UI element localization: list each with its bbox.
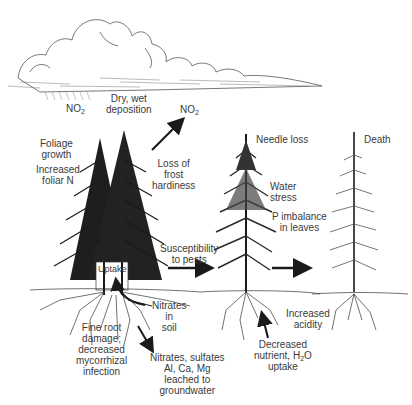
acidity-label: Increasedacidity (286, 308, 330, 330)
water-stress-label: Waterstress (270, 181, 297, 203)
deposition-label: Dry, wetdeposition (106, 93, 152, 115)
nutrient-uptake-label: Decreasednutrient, H2Ouptake (254, 339, 312, 372)
illustration (0, 0, 412, 405)
cloud-icon (8, 20, 322, 100)
frost-hardiness-label: Loss offrosthardiness (152, 158, 195, 191)
p-imbalance-label: P imbalancein leaves (272, 211, 327, 233)
uptake-label: Uptake (98, 264, 127, 275)
foliar-n-label: Increasedfoliar N (36, 164, 80, 186)
pests-label: Susceptibilityto pests (160, 243, 218, 265)
nutrient-arrow (262, 314, 268, 338)
nitrates-soil-label: Nitratesinsoil (152, 300, 186, 333)
foliage-growth-label: Foliagegrowth (40, 138, 73, 160)
declining-tree-icon (214, 134, 276, 292)
dead-tree-icon (330, 132, 378, 292)
death-label: Death (364, 134, 391, 145)
needle-loss-label: Needle loss (256, 134, 308, 145)
no2-label-right: NO2 (180, 104, 199, 115)
root-damage-label: Fine rootdamage;decreasedmycorrhizalinfe… (76, 322, 127, 377)
leaching-label: Nitrates, sulfatesAl, Ca, Mgleached togr… (150, 352, 224, 396)
emission-arrow (152, 120, 182, 150)
no2-label-left: NO2 (66, 103, 85, 114)
